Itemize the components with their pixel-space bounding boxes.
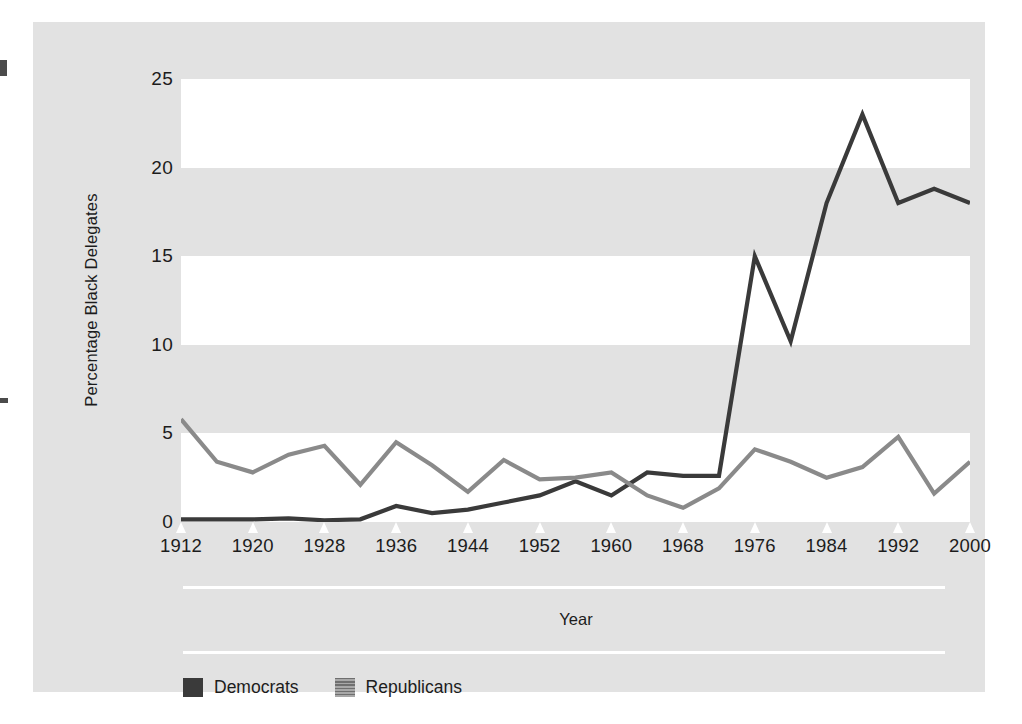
- x-tick-label: 1992: [877, 535, 919, 557]
- x-tick-mark: [606, 522, 616, 533]
- legend-swatch-icon: [183, 678, 203, 697]
- data-series-layer: [181, 79, 970, 522]
- x-tick-mark: [750, 522, 760, 533]
- x-tick-mark: [463, 522, 473, 533]
- x-tick-mark: [319, 522, 329, 533]
- y-tick-label: 20: [151, 157, 173, 179]
- y-tick-label: 25: [151, 68, 173, 90]
- x-tick-mark: [391, 522, 401, 533]
- x-tick-mark: [535, 522, 545, 533]
- x-axis-tick-labels: 1912192019281936194419521960196819761984…: [181, 535, 970, 565]
- x-tick-label: 1912: [160, 535, 202, 557]
- y-tick-label: 15: [151, 245, 173, 267]
- legend-swatch-icon: [335, 678, 355, 697]
- x-tick-mark: [176, 522, 186, 533]
- legend-label: Republicans: [366, 677, 462, 698]
- page-scan-artifact-top: [0, 60, 7, 76]
- x-tick-label: 1928: [303, 535, 345, 557]
- x-tick-label: 1936: [375, 535, 417, 557]
- legend-item: Democrats: [183, 677, 299, 698]
- y-tick-label: 10: [151, 334, 173, 356]
- x-tick-label: 1984: [806, 535, 848, 557]
- x-tick-label: 1968: [662, 535, 704, 557]
- x-tick-mark: [822, 522, 832, 533]
- x-tick-mark: [893, 522, 903, 533]
- series-line-republicans: [181, 419, 970, 508]
- x-tick-mark: [965, 522, 975, 533]
- x-tick-label: 1952: [519, 535, 561, 557]
- x-axis-title: Year: [559, 610, 592, 629]
- figure-panel: Percentage Black Delegates 0510152025 19…: [33, 22, 985, 692]
- y-tick-label: 5: [162, 422, 173, 444]
- x-tick-label: 1960: [590, 535, 632, 557]
- separator-rule-upper: [183, 586, 945, 589]
- x-axis-tick-marks: [181, 522, 970, 534]
- y-axis-tick-labels: 0510152025: [133, 79, 173, 522]
- plot-area: [181, 79, 970, 522]
- y-tick-label: 0: [162, 511, 173, 533]
- separator-rule-lower: [183, 651, 945, 654]
- series-line-democrats: [181, 114, 970, 520]
- legend-item: Republicans: [335, 677, 462, 698]
- x-tick-mark: [678, 522, 688, 533]
- page-scan-artifact-middle: [0, 398, 8, 403]
- x-tick-label: 1944: [447, 535, 489, 557]
- legend-label: Democrats: [214, 677, 299, 698]
- x-tick-label: 1976: [734, 535, 776, 557]
- x-tick-mark: [248, 522, 258, 533]
- x-tick-label: 2000: [949, 535, 991, 557]
- y-axis-title: Percentage Black Delegates: [82, 193, 101, 406]
- x-tick-label: 1920: [232, 535, 274, 557]
- chart-legend: DemocratsRepublicans: [183, 677, 462, 698]
